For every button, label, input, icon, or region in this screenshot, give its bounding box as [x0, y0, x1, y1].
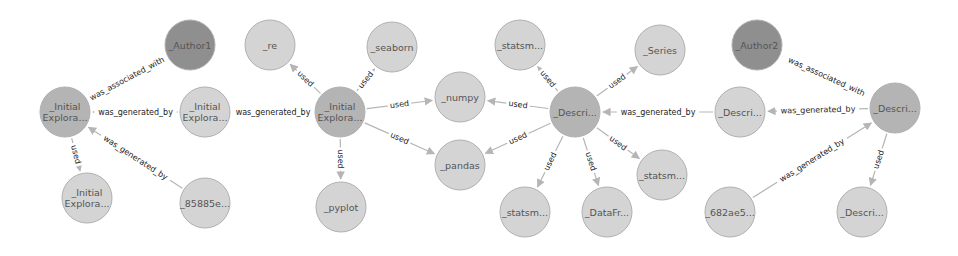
node-label: _Author2 [735, 40, 779, 51]
node-label: _numpy [440, 92, 479, 103]
node-label: _seaborn [370, 42, 414, 53]
node-label: _85885e... [179, 198, 230, 209]
node-label: Explora... [318, 112, 363, 123]
node-seaborn[interactable]: _seaborn [367, 22, 417, 72]
node-label: _682ae5... [704, 207, 755, 218]
edge-label: used [506, 97, 531, 110]
edge-label: used [583, 148, 600, 174]
node-label: Explora... [183, 112, 228, 123]
node-descri-mid[interactable]: _Descri... [715, 87, 765, 137]
edge-label: was_generated_by [232, 106, 314, 117]
svg-text:used: used [508, 99, 528, 110]
svg-text:used: used [336, 149, 345, 168]
edge-was-associated-with[interactable]: was_associated_with [780, 51, 873, 101]
node-statsm-bottom[interactable]: _statsm... [500, 187, 550, 237]
svg-text:was_generated_by: was_generated_by [236, 108, 311, 117]
svg-text:was_generated_by: was_generated_by [102, 134, 170, 182]
edge-used[interactable]: used [367, 97, 432, 110]
edge-label: was_associated_with [780, 51, 873, 101]
node-re[interactable]: _re [245, 20, 295, 70]
node-descri-bottom[interactable]: _Descri... [837, 187, 887, 237]
edge-was-generated-by[interactable]: was_generated_by [753, 123, 871, 198]
svg-text:was_associated_with: was_associated_with [88, 55, 166, 102]
node-author2[interactable]: _Author2 [732, 20, 782, 70]
node-statsm-top[interactable]: _statsm... [495, 20, 545, 70]
edge-was-generated-by[interactable]: was_generated_by [232, 106, 314, 117]
edge-used[interactable]: used [597, 67, 638, 97]
node-pandas[interactable]: _pandas [435, 140, 485, 190]
edge-label: was_associated_with [81, 51, 172, 106]
node-label: _Descri... [872, 103, 917, 114]
edge-label: was_generated_by [777, 103, 860, 116]
node-label: Explora... [43, 112, 88, 123]
edge-label: used [604, 69, 629, 91]
node-statsm-right[interactable]: _statsm... [637, 150, 687, 200]
node-h85885e[interactable]: _85885e... [179, 178, 230, 228]
node-label: _Descri... [717, 107, 762, 118]
edge-was-associated-with[interactable]: was_associated_with [81, 51, 172, 106]
node-author1[interactable]: _Author1 [165, 20, 215, 70]
edge-used[interactable]: used [583, 138, 600, 186]
node-label: Explora... [65, 198, 110, 209]
node-label: _pyplot [323, 202, 359, 213]
edge-used[interactable]: used [365, 123, 435, 154]
edge-was-generated-by[interactable]: was_generated_by [603, 106, 713, 117]
node-ie-main[interactable]: _InitialExplora... [40, 87, 90, 137]
node-pyplot[interactable]: _pyplot [316, 182, 366, 232]
node-label: _Series [642, 45, 677, 56]
edge-used[interactable]: used [336, 139, 347, 179]
edge-label: used [505, 128, 531, 147]
edge-label: was_generated_by [774, 133, 849, 186]
node-series[interactable]: _Series [635, 25, 685, 75]
edge-label: used [540, 148, 560, 174]
edge-used[interactable]: used [290, 64, 320, 93]
svg-text:used: used [389, 99, 409, 110]
edge-label: used [869, 146, 886, 172]
graph-canvas[interactable]: was_associated_withwas_generated_bywas_g… [0, 0, 958, 256]
edge-was-generated-by[interactable]: was_generated_by [93, 106, 178, 117]
edge-used[interactable]: used [869, 134, 886, 186]
edge-used[interactable]: used [485, 123, 550, 153]
edge-used[interactable]: used [537, 66, 560, 91]
node-label: _statsm... [501, 207, 548, 218]
node-numpy[interactable]: _numpy [435, 72, 485, 122]
edge-was-generated-by[interactable]: was_generated_by [768, 103, 868, 116]
node-ie-hub[interactable]: _InitialExplora... [315, 87, 365, 137]
node-label: _DataFr... [584, 207, 629, 218]
node-ie-act1[interactable]: _InitialExplora... [180, 87, 230, 137]
edge-label: used [336, 147, 347, 171]
nodes-layer: _Author1_InitialExplora..._InitialExplor… [40, 20, 920, 237]
edge-used[interactable]: used [69, 138, 85, 171]
node-label: _re [262, 40, 277, 51]
node-label: _Author1 [168, 40, 212, 51]
node-label: _Descri... [552, 107, 597, 118]
svg-text:was_generated_by: was_generated_by [778, 136, 846, 184]
node-label: _statsm... [638, 170, 685, 181]
edge-used[interactable]: used [488, 97, 548, 110]
svg-text:was_generated_by: was_generated_by [781, 105, 856, 116]
node-datafr[interactable]: _DataFr... [582, 187, 632, 237]
node-descri-right[interactable]: _Descri... [870, 83, 920, 133]
svg-text:was_generated_by: was_generated_by [621, 108, 696, 117]
edge-label: was_generated_by [617, 106, 699, 117]
svg-text:used: used [389, 130, 410, 146]
node-label: _Initial [48, 101, 80, 112]
svg-text:used: used [69, 144, 82, 165]
node-h682ae5[interactable]: _682ae5... [704, 187, 755, 237]
node-descri-hub[interactable]: _Descri... [550, 87, 600, 137]
edge-label: was_generated_by [94, 106, 176, 117]
node-label: _Initial [188, 101, 220, 112]
svg-text:used: used [507, 130, 528, 146]
edge-label: used [606, 131, 631, 153]
svg-text:used: used [584, 151, 598, 172]
edge-used[interactable]: used [597, 128, 639, 159]
node-label: _Initial [323, 101, 355, 112]
edge-label: used [387, 128, 413, 147]
svg-text:was_generated_by: was_generated_by [98, 108, 173, 117]
edge-label: used [69, 142, 85, 167]
edge-used[interactable]: used [354, 67, 377, 92]
edge-used[interactable]: used [538, 136, 563, 187]
node-ie-used[interactable]: _InitialExplora... [62, 173, 112, 223]
edge-label: was_generated_by [98, 130, 173, 184]
node-label: _Initial [70, 187, 102, 198]
